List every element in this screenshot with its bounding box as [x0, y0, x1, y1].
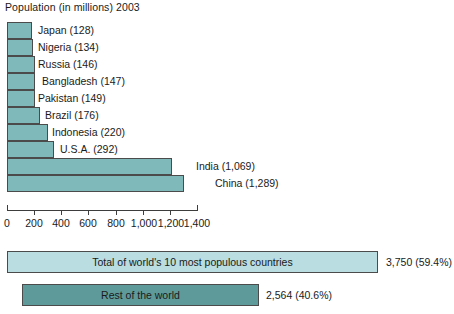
- summary-bar-total-value: 3,750 (59.4%): [386, 251, 452, 273]
- population-bar-chart: Population (in millions) 2003 Japan (128…: [0, 0, 454, 314]
- summary-bar-total-label: Total of world's 10 most populous countr…: [92, 256, 292, 268]
- summary-bar-rest: Rest of the world: [22, 284, 259, 306]
- summary-bar-rest-value: 2,564 (40.6%): [266, 284, 332, 306]
- summary-area: Total of world's 10 most populous countr…: [0, 0, 454, 314]
- summary-bar-rest-label: Rest of the world: [101, 289, 180, 301]
- summary-bar-total: Total of world's 10 most populous countr…: [7, 251, 378, 273]
